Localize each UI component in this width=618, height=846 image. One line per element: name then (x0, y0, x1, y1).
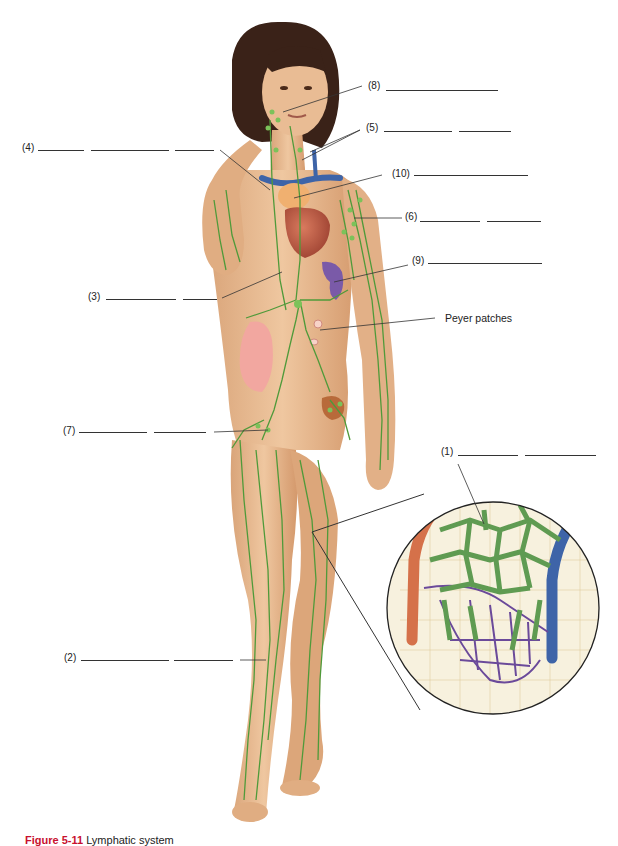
answer-blank-3-2[interactable] (183, 299, 217, 300)
label-10: (10) (392, 168, 410, 180)
label-9: (9) (412, 255, 424, 267)
caption-number: Figure 5-11 (25, 834, 83, 846)
thymus (278, 183, 310, 209)
answer-blank-9-1[interactable] (428, 263, 542, 264)
answer-blank-1-2[interactable] (525, 455, 596, 456)
answer-blank-1-1[interactable] (458, 455, 518, 456)
body-figure (202, 22, 395, 822)
answer-blank-4-3[interactable] (175, 150, 214, 151)
answer-blank-7-2[interactable] (154, 432, 206, 433)
label-3: (3) (88, 291, 100, 303)
answer-blank-4-2[interactable] (91, 150, 169, 151)
answer-blank-10-1[interactable] (414, 175, 528, 176)
peyer-patch (314, 320, 322, 328)
figure-caption: Figure 5-11 Lymphatic system (25, 834, 174, 846)
answer-blank-5-1[interactable] (384, 131, 452, 132)
label-1: (1) (441, 446, 453, 458)
label-6: (6) (405, 211, 417, 223)
answer-blank-6-1[interactable] (420, 221, 480, 222)
answer-blank-8-1[interactable] (386, 90, 498, 91)
label-peyer-patches: Peyer patches (445, 312, 512, 324)
answer-blank-3-1[interactable] (106, 299, 176, 300)
left-arm (342, 178, 395, 490)
label-8: (8) (368, 80, 380, 92)
label-7: (7) (63, 425, 75, 437)
answer-blank-6-2[interactable] (487, 221, 541, 222)
answer-blank-4-1[interactable] (38, 150, 84, 151)
answer-blank-7-1[interactable] (79, 432, 147, 433)
label-4: (4) (22, 142, 34, 154)
answer-blank-2-1[interactable] (81, 660, 169, 661)
inset-magnified-view (312, 494, 600, 720)
appendix-intestine (240, 321, 273, 392)
answer-blank-2-2[interactable] (174, 660, 233, 661)
answer-blank-5-2[interactable] (459, 131, 511, 132)
caption-text: Lymphatic system (86, 834, 174, 846)
label-5: (5) (366, 122, 378, 134)
label-2: (2) (64, 652, 76, 664)
